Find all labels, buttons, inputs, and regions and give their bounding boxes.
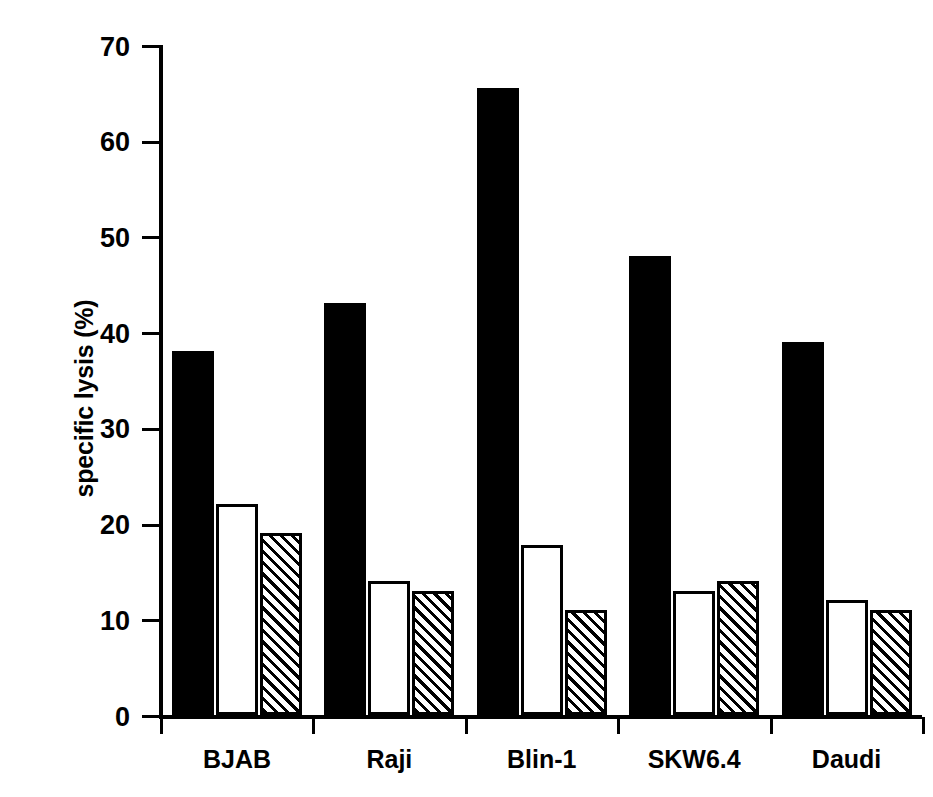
y-axis-tick-label: 0 (115, 703, 130, 730)
y-axis-tick-label: 60 (100, 129, 130, 156)
bar-hatched-bar (717, 581, 759, 715)
bar-group (172, 45, 302, 715)
bar-hatched-bar (260, 533, 302, 715)
x-axis-label: SKW6.4 (629, 747, 759, 772)
y-axis-tick: 10 (142, 619, 160, 622)
x-axis-label: BJAB (172, 747, 302, 772)
x-axis-tick (617, 717, 620, 734)
y-axis-tick: 70 (142, 45, 160, 48)
x-axis-tick (922, 717, 925, 734)
y-axis-spine (159, 45, 163, 715)
x-axis-tick (770, 717, 773, 734)
y-axis-tick: 50 (142, 236, 160, 239)
bar-group (324, 45, 454, 715)
bar-open-white-bar (826, 600, 868, 715)
y-axis-tick: 30 (142, 428, 160, 431)
bar-open-white-bar (368, 581, 410, 715)
bar-hatched-bar (870, 610, 912, 715)
y-axis-tick-label: 50 (100, 224, 130, 251)
x-axis-label: Raji (324, 747, 454, 772)
x-axis-label: Daudi (782, 747, 912, 772)
bar-solid-black-bar (782, 342, 824, 715)
plot-area: 010203040506070 BJABRajiBlin-1SKW6.4Daud… (160, 45, 922, 715)
bar-open-white-bar (673, 591, 715, 715)
x-axis-spine (159, 715, 922, 719)
bar-solid-black-bar (477, 88, 519, 715)
y-axis-tick: 0 (142, 715, 160, 718)
y-axis-tick-label: 10 (100, 607, 130, 634)
bar-solid-black-bar (629, 256, 671, 715)
bar-hatched-bar (412, 591, 454, 715)
y-axis-tick: 40 (142, 332, 160, 335)
x-axis-tick (312, 717, 315, 734)
y-axis-tick-label: 20 (100, 512, 130, 539)
bar-chart: specific lysis (%) 010203040506070 BJABR… (0, 0, 933, 797)
bar-open-white-bar (521, 545, 563, 715)
y-axis-tick-label: 30 (100, 416, 130, 443)
bar-group (477, 45, 607, 715)
bar-solid-black-bar (324, 303, 366, 715)
x-axis-tick-origin (160, 717, 163, 734)
bar-solid-black-bar (172, 351, 214, 715)
x-axis-label: Blin-1 (477, 747, 607, 772)
y-axis-tick-label: 70 (100, 33, 130, 60)
y-axis-tick-label: 40 (100, 320, 130, 347)
bar-group (629, 45, 759, 715)
bar-hatched-bar (565, 610, 607, 715)
bar-open-white-bar (216, 504, 258, 715)
x-axis-tick (465, 717, 468, 734)
y-axis-title: specific lysis (%) (56, 0, 112, 797)
y-axis-tick: 20 (142, 524, 160, 527)
bar-group (782, 45, 912, 715)
y-axis-tick: 60 (142, 141, 160, 144)
